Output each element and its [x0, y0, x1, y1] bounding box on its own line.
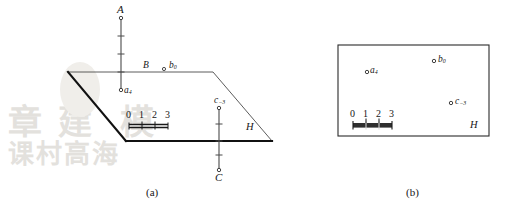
- axis-c-line: [216, 106, 223, 171]
- panel-b-scale-tick-0: 0: [350, 109, 355, 119]
- panel-a-group: [68, 16, 272, 171]
- panel-a-caption: (a): [146, 186, 158, 198]
- panel-a-point-c-sub: −3: [218, 99, 225, 105]
- panel-b-point-c-3-marker: [449, 101, 452, 104]
- panel-b-caption: (b): [406, 186, 419, 198]
- panel-a-point-b0-marker: [162, 67, 165, 70]
- panel-b-scale-tick-1: 1: [363, 109, 368, 119]
- panel-b-point-c-sub: −3: [459, 100, 466, 106]
- panel-b-point-b0-label: b0: [438, 55, 446, 65]
- panel-b-group: [338, 45, 489, 136]
- panel-a-plane-point-b0-label: B: [143, 61, 149, 71]
- panel-b-point-b-sub: 0: [443, 58, 446, 64]
- panel-a-scale-tick-1: 1: [139, 110, 144, 120]
- panel-a-point-b0-sub: 0: [174, 64, 177, 70]
- panel-b-point-a-sub: 4: [375, 69, 378, 75]
- panel-a-scale-tick-3: 3: [165, 110, 170, 120]
- panel-b-point-a4-label: a4: [370, 66, 378, 76]
- panel-a-scale-tick-0: 0: [126, 110, 131, 120]
- panel-b-plane-h-label: H: [470, 120, 478, 131]
- plane-h-parallelogram: [68, 72, 272, 141]
- panel-a-scale-bar: [129, 122, 168, 130]
- panel-b-point-a4-marker: [365, 70, 368, 73]
- panel-a-point-c-3-label: c−3: [214, 96, 225, 106]
- panel-a-axis-a-cap-label: A: [117, 4, 124, 15]
- panel-b-point-b0-marker: [432, 59, 435, 62]
- panel-b-point-c-3-label: c−3: [455, 97, 466, 107]
- panel-b-scale-tick-2: 2: [376, 109, 381, 119]
- panel-a-point-b-letter: B: [143, 60, 149, 70]
- panel-a-point-b0-sublabel: b0: [169, 61, 177, 71]
- panel-a-plane-h-label: H: [246, 122, 254, 133]
- panel-a-point-a4-sub: 4: [129, 89, 132, 95]
- axis-a-line: [118, 16, 125, 91]
- panel-a-axis-c-cap-label: C: [215, 172, 222, 183]
- panel-b-scale-tick-3: 3: [389, 109, 394, 119]
- panel-a-scale-tick-2: 2: [152, 110, 157, 120]
- figure-vector-layer: [0, 0, 515, 214]
- panel-b-rect: [338, 45, 489, 136]
- figure-root: 章 建 模 课村高海: [0, 0, 515, 214]
- panel-a-point-a4-label: a4: [124, 86, 132, 96]
- panel-b-scale-bar: [353, 119, 392, 130]
